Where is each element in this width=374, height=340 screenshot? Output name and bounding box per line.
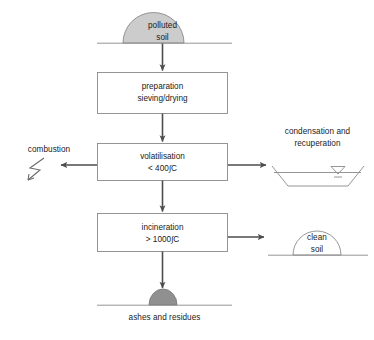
polluted-soil-label: pollutedsoil	[124, 20, 201, 43]
combustion-label: combustion	[8, 144, 90, 155]
condensation-label-line2: recuperation	[294, 139, 340, 148]
condensation-basin-shape	[272, 166, 364, 186]
preparation-label-line2: sieving/drying	[137, 94, 187, 103]
process-flow-diagram: pollutedsoil preparationsieving/drying v…	[0, 0, 374, 340]
ashes-mound	[149, 289, 177, 305]
preparation-label-line1: preparation	[142, 82, 183, 91]
incineration-label-line2: > 1000∫C	[146, 235, 179, 244]
volatilisation-label-line2: < 400∫C	[148, 164, 177, 173]
ashes-shape	[97, 289, 232, 305]
volatilisation-label-line1: volatilisation	[140, 152, 185, 161]
condensation-label: condensation andrecuperation	[261, 126, 374, 149]
lightning-bolt-icon	[28, 158, 44, 180]
incineration-label: incineration> 1000∫C	[97, 222, 228, 245]
basin-outline	[272, 166, 364, 186]
condensation-label-line1: condensation and	[285, 127, 350, 136]
polluted-soil-label-line1: polluted	[148, 21, 177, 30]
clean-soil-label-line1: clean	[307, 233, 327, 242]
clean-soil-label: cleansoil	[290, 232, 344, 255]
incineration-label-line1: incineration	[142, 223, 184, 232]
clean-soil-label-line2: soil	[311, 245, 324, 254]
preparation-label: preparationsieving/drying	[97, 81, 228, 104]
volatilisation-label: volatilisation< 400∫C	[97, 151, 228, 174]
ashes-label: ashes and residues	[97, 312, 232, 323]
polluted-soil-label-line2: soil	[156, 33, 169, 42]
